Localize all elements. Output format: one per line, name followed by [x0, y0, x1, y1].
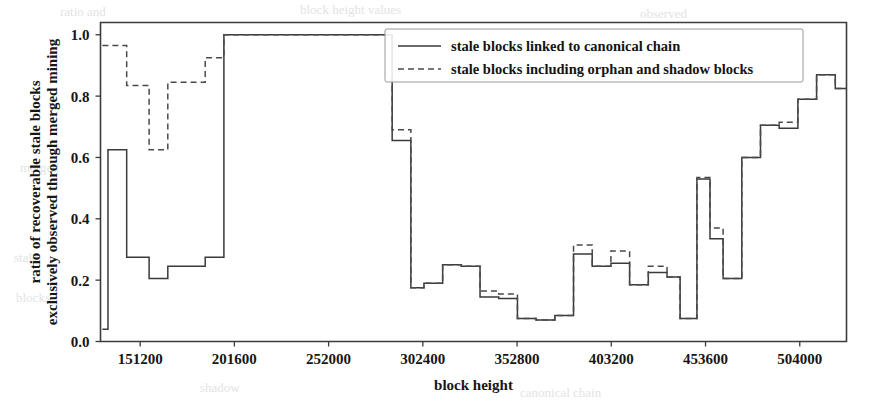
x-tick-label: 352800 [495, 351, 540, 367]
x-tick-label: 453600 [683, 351, 728, 367]
x-tick-label: 252000 [306, 351, 351, 367]
x-tick-label: 201600 [212, 351, 257, 367]
y-tick-label: 1.0 [71, 27, 90, 43]
chart-figure: ratio andblock height valuesobservedmerg… [0, 0, 869, 408]
bleed-text: shadow [200, 380, 240, 395]
x-axis-ticks: 1512002016002520003024003528004032004536… [118, 342, 823, 367]
y-tick-label: 0.4 [71, 211, 90, 227]
y-axis-label-line1: ratio of recoverable stale blocks [27, 80, 43, 283]
chart-canvas: ratio andblock height valuesobservedmerg… [0, 0, 869, 408]
bleed-text: block height values [300, 2, 401, 17]
x-tick-label: 302400 [400, 351, 445, 367]
y-axis-ticks: 0.00.20.40.60.81.0 [71, 27, 101, 350]
x-axis-label: block height [434, 377, 513, 393]
y-axis-label-line2: exclusively observed through merged mini… [44, 38, 60, 325]
legend-label-dashed: stale blocks including orphan and shadow… [451, 61, 754, 77]
y-tick-label: 0.0 [71, 334, 90, 350]
x-tick-label: 403200 [589, 351, 634, 367]
y-tick-label: 0.8 [71, 89, 90, 105]
x-tick-label: 504000 [777, 351, 822, 367]
bleed-text: canonical chain [520, 385, 602, 400]
y-tick-label: 0.6 [71, 150, 90, 166]
bleed-text: ratio and [60, 4, 106, 19]
y-tick-label: 0.2 [71, 273, 90, 289]
legend-label-solid: stale blocks linked to canonical chain [451, 38, 680, 54]
bleed-text: observed [640, 6, 687, 21]
chart-legend[interactable]: stale blocks linked to canonical chain s… [385, 29, 803, 82]
x-tick-label: 151200 [118, 351, 163, 367]
legend-entry-dashed[interactable]: stale blocks including orphan and shadow… [398, 61, 754, 77]
